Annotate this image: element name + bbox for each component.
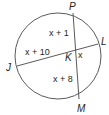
point-label-j: J	[5, 62, 12, 73]
point-label-k: K	[65, 52, 73, 63]
point-label-p: P	[69, 1, 76, 12]
segment-label-kl: x	[78, 50, 83, 60]
circle-diagram: P L J M K x + 1 x + 10 x x + 8	[0, 0, 109, 115]
segment-label-km: x + 8	[53, 74, 73, 84]
point-label-l: L	[101, 36, 107, 47]
point-label-m: M	[77, 103, 86, 114]
segment-label-jk: x + 10	[25, 47, 50, 57]
segment-label-pk: x + 1	[49, 28, 69, 38]
